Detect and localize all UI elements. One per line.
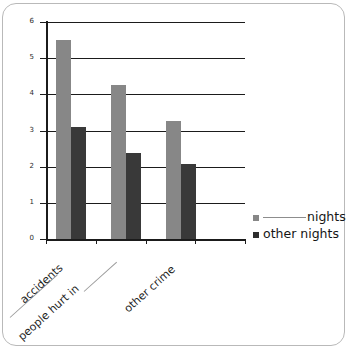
- gridline-5: [46, 58, 245, 59]
- y-tick-label-2: 2: [0, 163, 34, 170]
- leader-line-people-hurt: [84, 262, 117, 292]
- y-tick-label-1: 1: [0, 199, 34, 206]
- gridline-4: [46, 94, 245, 95]
- legend-entry-other-nights: other nights: [253, 226, 348, 243]
- bar-people-hurt-nights: [111, 85, 126, 239]
- chart-page: 6 5 4 3 2 1 0 accidents: [0, 0, 350, 352]
- gridline-6: [46, 22, 245, 23]
- chart-legend: nights other nights: [253, 209, 348, 243]
- legend-swatch-other-nights-icon: [253, 232, 259, 238]
- legend-redacted-blank: [263, 217, 306, 218]
- plot-area: [46, 22, 245, 239]
- bar-other-crime-other-nights: [181, 164, 196, 239]
- bar-other-crime-nights: [166, 121, 181, 239]
- legend-entry-nights: nights: [253, 209, 348, 226]
- legend-swatch-nights-icon: [253, 215, 259, 221]
- x-category-label-other-crime: other crime: [122, 263, 178, 315]
- legend-label-other-nights: other nights: [263, 228, 339, 241]
- y-tick-label-4: 4: [0, 90, 34, 97]
- y-tick-label-3: 3: [0, 127, 34, 134]
- bar-people-hurt-other-nights: [126, 153, 141, 239]
- legend-label-nights: nights: [307, 211, 346, 224]
- x-axis-labels: accidents people hurt in other crime: [0, 239, 350, 352]
- bar-accidents-other-nights: [71, 127, 86, 239]
- bar-accidents-nights: [56, 40, 71, 239]
- y-tick-label-6: 6: [0, 18, 34, 25]
- y-tick-label-5: 5: [0, 54, 34, 61]
